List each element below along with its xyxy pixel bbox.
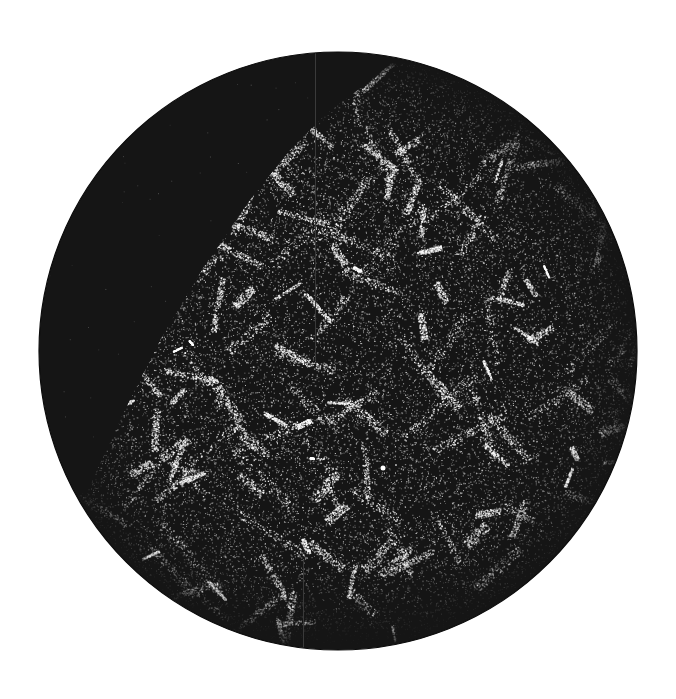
galaxy-map-figure (0, 0, 676, 699)
galaxy-survey-disk (0, 0, 676, 699)
